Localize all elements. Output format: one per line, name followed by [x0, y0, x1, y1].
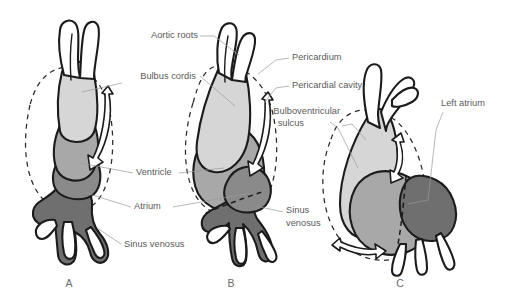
label-ventricle: Ventricle — [136, 167, 172, 177]
label-sinus-venosus-b-line1: Sinus — [286, 205, 310, 215]
figure-canvas: A B — [0, 0, 505, 303]
panel-c: C — [323, 64, 456, 289]
aortic-root-right-a — [80, 22, 99, 79]
sinus-horn-right-c — [436, 233, 454, 270]
panel-letter-b: B — [227, 277, 234, 289]
sinus-horn-mid-b — [235, 228, 247, 264]
label-sinus-venosus-b-line2: venosus — [286, 218, 321, 228]
label-bulboventricular-sulcus-line2: sulcus — [278, 118, 305, 128]
label-atrium: Atrium — [134, 201, 161, 211]
caption-clipped — [0, 295, 505, 303]
panel-letter-c: C — [396, 277, 404, 289]
label-pericardial-cavity: Pericardial cavity — [292, 80, 363, 90]
label-pericardium: Pericardium — [292, 52, 342, 62]
aortic-root-left-c — [364, 64, 382, 128]
panel-letter-a: A — [65, 277, 72, 289]
leader-pericardium — [258, 58, 289, 74]
aortic-root-left-a — [59, 21, 80, 78]
sinus-horn-mid-c — [415, 239, 427, 275]
label-aortic-roots: Aortic roots — [151, 30, 198, 40]
sinus-horn-mid-a — [63, 222, 76, 259]
panel-b: B — [185, 23, 276, 289]
label-bulboventricular-sulcus-line1: Bulboventricular — [273, 106, 340, 116]
label-left-atrium: Left atrium — [441, 98, 485, 108]
panel-a: A — [26, 21, 113, 289]
label-sinus-venosus-a: Sinus venosus — [124, 239, 185, 249]
embryology-heart-looping-figure: A B — [0, 0, 505, 303]
left-atrium-shape-c — [400, 176, 456, 241]
atrium-shape-b — [224, 167, 271, 213]
label-bulbus-cordis: Bulbus cordis — [140, 71, 196, 81]
